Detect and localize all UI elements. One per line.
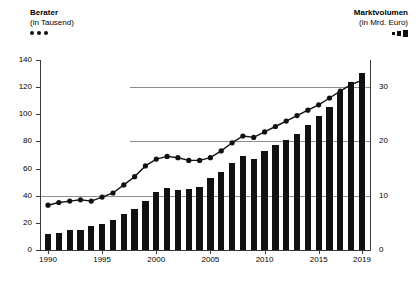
data-point (349, 82, 354, 87)
y-axis-right (370, 60, 371, 250)
data-point (175, 155, 180, 160)
line-path (48, 80, 362, 205)
y-tick (36, 169, 40, 170)
x-tick-label: 2000 (136, 256, 176, 264)
dot-series-marker-icon (30, 29, 74, 37)
data-point (143, 163, 148, 168)
data-point (230, 140, 235, 145)
y-tick-label: 60 (6, 165, 32, 173)
y-axis-left (40, 60, 41, 250)
data-point (327, 95, 332, 100)
legend-right-title: Marktvolumen (354, 8, 408, 18)
x-tick-label: 2019 (342, 256, 382, 264)
x-tick (102, 250, 103, 254)
data-point (208, 155, 213, 160)
data-point (67, 199, 72, 204)
y-tick-label: 0 (6, 246, 32, 254)
data-point (132, 174, 137, 179)
data-point (284, 119, 289, 124)
y-tick (36, 141, 40, 142)
x-tick-label: 2010 (245, 256, 285, 264)
data-point (294, 113, 299, 118)
x-tick-label: 2005 (190, 256, 230, 264)
y-tick-label-right: 0 (379, 246, 401, 254)
y-tick-label-right: 20 (379, 137, 401, 145)
y-tick-label-right: 30 (379, 83, 401, 91)
legend-right: Marktvolumen (in Mrd. Euro) (354, 8, 408, 37)
y-tick (36, 196, 40, 197)
plot-area: 020406080100120140 0102030 1990199520002… (40, 60, 370, 250)
data-point (273, 124, 278, 129)
data-point (338, 89, 343, 94)
legend-left-subtitle: (in Tausend) (30, 18, 74, 28)
y-tick (36, 250, 40, 251)
x-axis (40, 250, 371, 251)
x-tick (210, 250, 211, 254)
x-tick (265, 250, 266, 254)
legend-left: Berater (in Tausend) (30, 8, 74, 37)
y-tick-label: 140 (6, 56, 32, 64)
y-tick (36, 223, 40, 224)
line-series (40, 60, 371, 250)
bar-series-marker-icon (354, 29, 408, 37)
chart-container: Berater (in Tausend) Marktvolumen (in Mr… (0, 0, 416, 283)
data-point (316, 102, 321, 107)
x-tick (319, 250, 320, 254)
data-point (186, 158, 191, 163)
x-tick (362, 250, 363, 254)
data-point (45, 203, 50, 208)
data-point (110, 190, 115, 195)
data-point (100, 195, 105, 200)
y-tick (36, 60, 40, 61)
data-point (154, 157, 159, 162)
data-point (56, 200, 61, 205)
y-tick-label: 80 (6, 137, 32, 145)
data-point (262, 129, 267, 134)
data-point (121, 182, 126, 187)
x-tick (156, 250, 157, 254)
data-point (197, 158, 202, 163)
legend-right-subtitle: (in Mrd. Euro) (354, 18, 408, 28)
data-point (251, 135, 256, 140)
data-point (219, 148, 224, 153)
data-point (78, 197, 83, 202)
y-tick-label: 20 (6, 219, 32, 227)
y-tick (36, 87, 40, 88)
x-tick-label: 2015 (299, 256, 339, 264)
data-point (165, 154, 170, 159)
x-tick-label: 1990 (28, 256, 68, 264)
y-tick-label-right: 10 (379, 192, 401, 200)
y-tick-label: 120 (6, 83, 32, 91)
legend-left-title: Berater (30, 8, 74, 18)
x-tick-label: 1995 (82, 256, 122, 264)
y-tick-label: 40 (6, 192, 32, 200)
data-point (359, 78, 364, 83)
y-tick (36, 114, 40, 115)
y-tick-label: 100 (6, 110, 32, 118)
data-point (305, 108, 310, 113)
data-point (89, 199, 94, 204)
x-tick (48, 250, 49, 254)
data-point (240, 133, 245, 138)
